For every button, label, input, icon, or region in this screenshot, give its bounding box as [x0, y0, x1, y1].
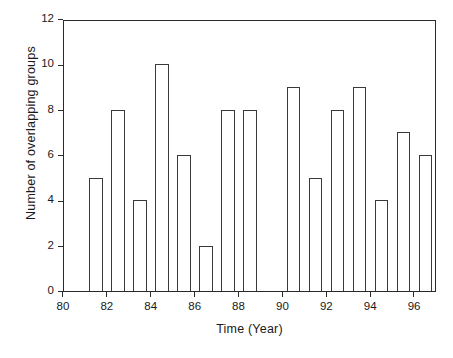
y-tick-label: 12: [14, 12, 54, 24]
bar: [89, 178, 103, 291]
bar: [309, 178, 323, 291]
bar: [287, 87, 301, 291]
x-tick-label: 90: [262, 300, 302, 312]
y-tick-label: 10: [14, 57, 54, 69]
x-tick-mark: [194, 292, 195, 297]
bar: [177, 155, 191, 291]
x-tick-label: 94: [350, 300, 390, 312]
x-tick-mark: [282, 292, 283, 297]
y-tick-label: 8: [14, 103, 54, 115]
x-tick-mark: [62, 292, 63, 297]
plot-area: [63, 20, 436, 292]
y-tick-label: 2: [14, 239, 54, 251]
y-axis-title: Number of overlapping groups: [24, 8, 38, 258]
bar: [221, 110, 235, 291]
bar: [133, 200, 147, 291]
y-tick-mark: [58, 19, 63, 20]
x-tick-mark: [238, 292, 239, 297]
bar: [155, 64, 169, 291]
x-tick-label: 84: [131, 300, 171, 312]
y-tick-mark: [58, 65, 63, 66]
x-tick-label: 80: [43, 300, 83, 312]
y-tick-mark: [58, 155, 63, 156]
x-axis-title: Time (Year): [63, 322, 436, 336]
y-tick-mark: [58, 201, 63, 202]
bar: [419, 155, 433, 291]
y-tick-label: 0: [14, 284, 54, 296]
y-tick-mark: [58, 110, 63, 111]
bar: [397, 132, 411, 291]
bar: [331, 110, 345, 291]
x-tick-label: 96: [394, 300, 434, 312]
bar: [353, 87, 367, 291]
x-tick-label: 86: [175, 300, 215, 312]
x-tick-label: 92: [306, 300, 346, 312]
y-tick-mark: [58, 246, 63, 247]
x-tick-mark: [326, 292, 327, 297]
y-tick-label: 6: [14, 148, 54, 160]
x-tick-mark: [370, 292, 371, 297]
x-tick-label: 88: [219, 300, 259, 312]
bar: [375, 200, 389, 291]
x-tick-mark: [106, 292, 107, 297]
figure-caption: [8, 350, 445, 358]
figure: Number of overlapping groups 024681012 8…: [0, 0, 453, 358]
x-tick-mark: [150, 292, 151, 297]
x-tick-label: 82: [87, 300, 127, 312]
bar: [199, 246, 213, 291]
y-tick-label: 4: [14, 193, 54, 205]
bar: [243, 110, 257, 291]
bar: [111, 110, 125, 291]
x-tick-mark: [413, 292, 414, 297]
